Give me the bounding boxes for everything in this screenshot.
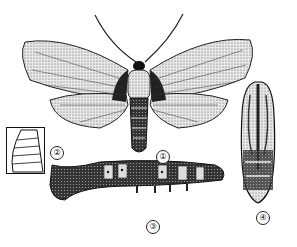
adult-moth: [22, 14, 252, 152]
label-larva: ③: [146, 220, 160, 234]
wing-detail: [7, 128, 44, 173]
detail-inset-box: [6, 127, 45, 174]
label-egg-detail: ②: [50, 146, 64, 160]
moth-illustration: [0, 0, 297, 247]
pupa: [241, 82, 274, 203]
label-pupa: ④: [256, 211, 270, 225]
larva: [50, 161, 224, 200]
label-adult: ①: [156, 150, 170, 164]
